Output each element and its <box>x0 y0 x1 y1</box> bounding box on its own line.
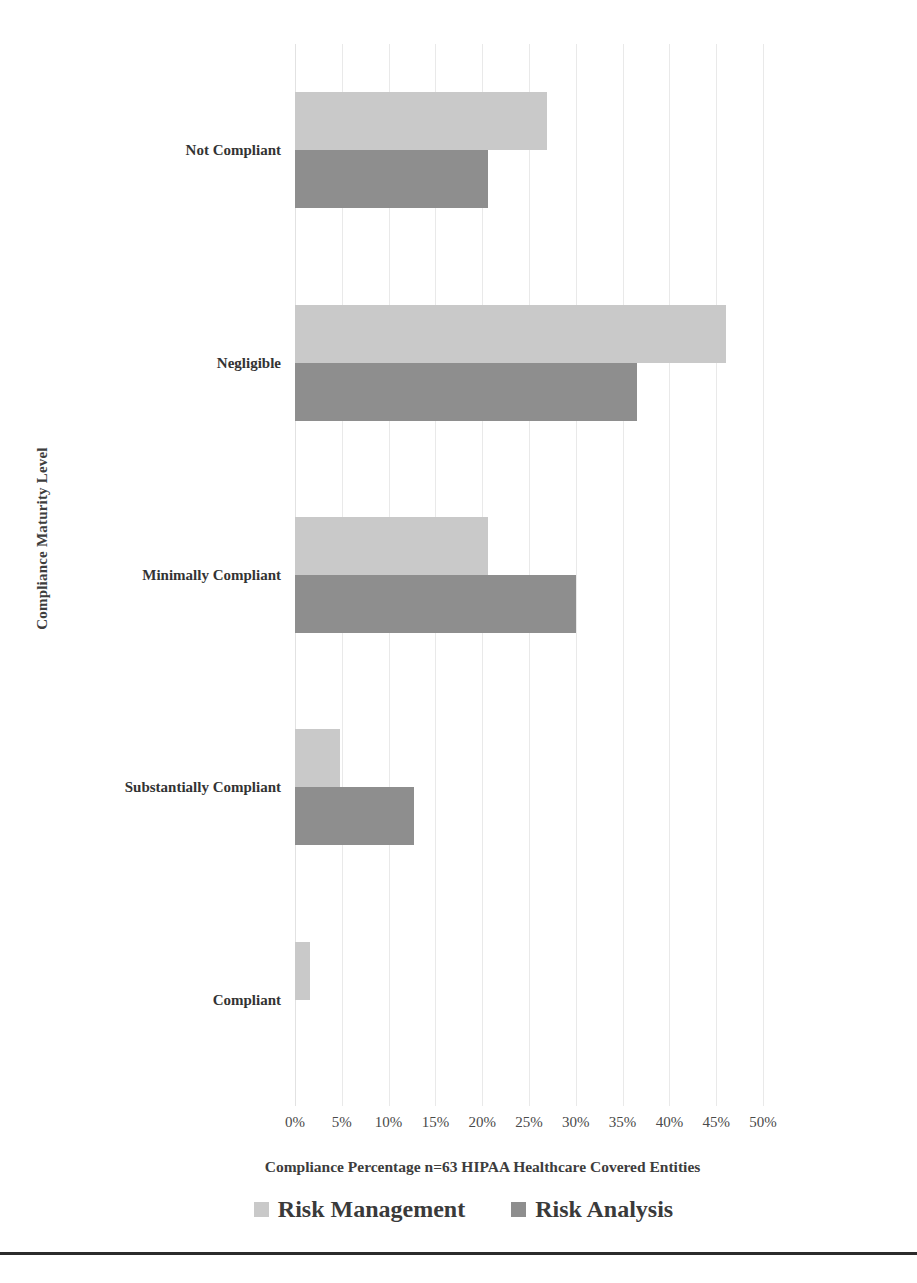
plot-area: CompliantSubstantially CompliantMinimall… <box>295 44 763 1106</box>
bar <box>295 575 576 633</box>
y-axis-title: Compliance Maturity Level <box>34 409 51 669</box>
bar <box>295 517 488 575</box>
chart-legend: Risk ManagementRisk Analysis <box>0 1196 917 1223</box>
y-axis-category-label: Minimally Compliant <box>21 567 281 583</box>
bar <box>295 729 340 787</box>
bottom-rule-divider <box>0 1252 917 1255</box>
legend-swatch-icon <box>511 1202 526 1217</box>
bar-group: Substantially Compliant <box>295 729 763 845</box>
x-axis-tick-label: 30% <box>562 1114 590 1131</box>
x-axis-tick-label: 20% <box>468 1114 496 1131</box>
x-axis-tick-label: 25% <box>515 1114 543 1131</box>
legend-item[interactable]: Risk Management <box>254 1196 465 1223</box>
bar-group: Negligible <box>295 305 763 421</box>
y-axis-category-label: Substantially Compliant <box>21 779 281 795</box>
legend-label: Risk Management <box>278 1196 465 1223</box>
legend-item[interactable]: Risk Analysis <box>511 1196 673 1223</box>
x-axis-tick-labels: 0%5%10%15%20%25%30%35%40%45%50% <box>295 1114 763 1138</box>
bar <box>295 305 726 363</box>
gridline <box>763 44 764 1106</box>
x-axis-tick-label: 35% <box>609 1114 637 1131</box>
legend-label: Risk Analysis <box>535 1196 673 1223</box>
bar <box>295 150 488 208</box>
bar <box>295 363 637 421</box>
x-axis-tick-label: 40% <box>656 1114 684 1131</box>
y-axis-category-label: Negligible <box>21 355 281 371</box>
bar <box>295 942 310 1000</box>
bar <box>295 787 414 845</box>
bar-chart: Compliance Maturity Level CompliantSubst… <box>0 0 917 1283</box>
x-axis-tick-label: 0% <box>285 1114 305 1131</box>
legend-swatch-icon <box>254 1202 269 1217</box>
x-axis-tick-label: 5% <box>332 1114 352 1131</box>
bar <box>295 92 547 150</box>
bar-group: Not Compliant <box>295 92 763 208</box>
y-axis-category-label: Not Compliant <box>21 142 281 158</box>
x-axis-tick-label: 10% <box>375 1114 403 1131</box>
bar-group: Minimally Compliant <box>295 517 763 633</box>
y-axis-category-label: Compliant <box>21 992 281 1008</box>
x-axis-tick-label: 45% <box>702 1114 730 1131</box>
x-axis-tick-label: 15% <box>422 1114 450 1131</box>
x-axis-tick-label: 50% <box>749 1114 777 1131</box>
x-axis-title: Compliance Percentage n=63 HIPAA Healthc… <box>0 1158 917 1176</box>
bar-group: Compliant <box>295 942 763 1058</box>
